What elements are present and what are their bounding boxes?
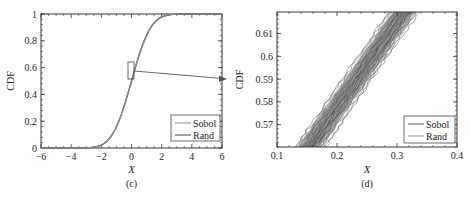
y-axis-label: CDF (234, 69, 245, 89)
arrow-head-icon (219, 76, 227, 83)
y-tick-label: 0 (32, 143, 37, 154)
y-tick-label: 0.8 (25, 35, 38, 46)
y-tick-label: 0.61 (256, 28, 274, 39)
y-tick-label: 0.58 (256, 96, 274, 107)
cdf-realization-sobol (295, 12, 391, 147)
y-tick-label: 1 (32, 9, 37, 20)
panel-caption: (c) (126, 178, 137, 190)
x-tick-label: 0 (129, 151, 134, 162)
y-axis-label: CDF (5, 71, 16, 91)
x-axis-label: X (363, 163, 372, 175)
legend-label-rand: Rand (426, 131, 447, 142)
x-tick-label: −6 (36, 151, 47, 162)
y-tick-label: 0.6 (25, 62, 38, 73)
x-tick-label: 0.4 (451, 150, 464, 161)
x-tick-label: 2 (159, 151, 164, 162)
legend-label-sobol: Sobol (426, 119, 450, 130)
y-tick-label: 0.6 (261, 51, 274, 62)
x-axis-label: X (127, 163, 136, 175)
zoom-connector-arrow (134, 71, 227, 82)
legend-label-rand: Rand (193, 130, 214, 141)
legend-label-sobol: Sobol (193, 118, 217, 129)
arrow-shaft (134, 71, 222, 79)
cdf-realization-bundle (295, 12, 420, 147)
y-tick-label: 0.4 (25, 89, 38, 100)
panel-caption: (d) (361, 178, 373, 190)
x-tick-label: 0.2 (331, 150, 344, 161)
chart-panel-c: −6−4−2024600.20.40.60.81SobolRandXCDF(c) (5, 9, 225, 191)
chart-panel-d: 0.10.20.30.40.570.580.590.60.61SobolRand… (234, 12, 463, 190)
x-tick-label: −2 (96, 151, 107, 162)
y-tick-label: 0.57 (256, 119, 274, 130)
x-tick-label: 0.3 (391, 150, 404, 161)
figure: −6−4−2024600.20.40.60.81SobolRandXCDF(c)… (0, 0, 470, 198)
x-tick-label: 4 (189, 151, 194, 162)
y-tick-label: 0.59 (256, 74, 274, 85)
x-tick-label: −4 (66, 151, 77, 162)
x-tick-label: 6 (220, 151, 225, 162)
x-tick-label: 0.1 (271, 150, 284, 161)
y-tick-label: 0.2 (25, 116, 38, 127)
